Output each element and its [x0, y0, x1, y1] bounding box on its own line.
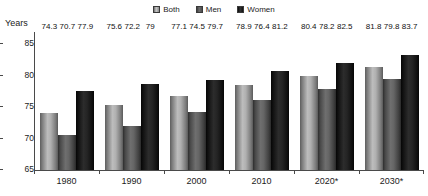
bar-value-2010-both: 78.9: [236, 22, 252, 31]
bar-wrap-2000-women: 79.7: [206, 32, 224, 170]
bar-wrap-1990-women: 79: [141, 32, 159, 170]
bar-wrap-2020-men: 78.2: [318, 32, 336, 170]
y-tick-mark-70: [0, 138, 3, 139]
bar-2030-men[interactable]: [383, 79, 401, 170]
legend-item-men: Men: [196, 5, 222, 14]
x-tick-mark-1: [99, 170, 100, 174]
bar-value-1980-women: 77.9: [78, 22, 94, 31]
x-tick-label-2020: 2020*: [294, 176, 359, 186]
bar-2000-both[interactable]: [170, 96, 188, 170]
bar-value-1980-men: 70.7: [60, 22, 76, 31]
x-tick-mark-2: [164, 170, 165, 174]
bar-wrap-2010-men: 76.4: [253, 32, 271, 170]
bar-group-1990: 75.6 72.2 79: [100, 32, 165, 170]
y-tick-mark-75: [0, 106, 3, 107]
legend-label-women: Women: [247, 5, 274, 14]
legend-swatch-icon-both: [153, 6, 160, 13]
legend-swatch-icon-men: [196, 6, 203, 13]
bar-wrap-2030-both: 81.8: [365, 32, 383, 170]
y-tick-label-65: 65: [25, 164, 34, 174]
bar-value-1980-both: 74.3: [42, 22, 58, 31]
y-tick-75: 75: [2, 101, 34, 111]
legend-item-women: Women: [237, 5, 274, 14]
x-tick-2020: 2020*: [294, 170, 359, 192]
bar-wrap-2020-both: 80.4: [300, 32, 318, 170]
y-tick-mark-65: [0, 169, 3, 170]
bar-wrap-2010-both: 78.9: [235, 32, 253, 170]
bar-value-2010-men: 76.4: [254, 22, 270, 31]
y-tick-65: 65: [2, 164, 34, 174]
bar-value-2000-men: 74.5: [189, 22, 205, 31]
bar-value-2020-both: 80.4: [301, 22, 317, 31]
legend-swatch-icon-women: [237, 6, 244, 13]
bar-value-2030-both: 81.8: [366, 22, 382, 31]
life-expectancy-bar-chart: Both Men Women Years 85 80 75 70: [0, 0, 428, 196]
x-tick-mark-4: [294, 170, 295, 174]
bar-1980-men[interactable]: [58, 135, 76, 170]
x-axis-ticks: 1980 1990 2000 2010 2020* 2030*: [34, 170, 424, 192]
bar-2000-women[interactable]: [206, 80, 224, 170]
bar-2000-men[interactable]: [188, 112, 206, 170]
bar-wrap-1990-both: 75.6: [105, 32, 123, 170]
x-tick-label-2000: 2000: [164, 176, 229, 186]
bar-2030-women[interactable]: [401, 55, 419, 170]
bar-groups: 74.3 70.7 77.9 75.6: [35, 32, 424, 170]
legend-label-both: Both: [163, 5, 179, 14]
y-tick-label-85: 85: [25, 38, 34, 48]
bar-2020-women[interactable]: [336, 63, 354, 170]
bar-1990-men[interactable]: [123, 126, 141, 170]
bar-value-2030-men: 79.8: [384, 22, 400, 31]
bar-1990-both[interactable]: [105, 105, 123, 170]
bar-value-2010-women: 81.2: [272, 22, 288, 31]
legend-label-men: Men: [206, 5, 222, 14]
x-tick-mark-3: [229, 170, 230, 174]
bar-2030-both[interactable]: [365, 67, 383, 170]
bar-wrap-1980-men: 70.7: [58, 32, 76, 170]
bar-value-2000-women: 79.7: [207, 22, 223, 31]
x-tick-1980: 1980: [34, 170, 99, 192]
y-tick-label-80: 80: [25, 70, 34, 80]
chart-legend: Both Men Women: [0, 5, 428, 14]
bar-2010-both[interactable]: [235, 85, 253, 170]
bar-wrap-2030-women: 83.7: [401, 32, 419, 170]
bar-wrap-1980-women: 77.9: [76, 32, 94, 170]
x-tick-2000: 2000: [164, 170, 229, 192]
bar-value-1990-men: 72.2: [124, 22, 140, 31]
bar-value-1990-women: 79: [146, 22, 155, 31]
bar-wrap-1980-both: 74.3: [40, 32, 58, 170]
x-tick-2030: 2030*: [359, 170, 424, 192]
plot-area: 85 80 75 70 65 74.3: [34, 32, 424, 170]
bar-1980-both[interactable]: [40, 113, 58, 170]
bar-wrap-2010-women: 81.2: [271, 32, 289, 170]
bar-2010-men[interactable]: [253, 100, 271, 170]
legend-item-both: Both: [153, 5, 179, 14]
x-tick-label-2030: 2030*: [359, 176, 424, 186]
x-tick-2010: 2010: [229, 170, 294, 192]
bar-1980-women[interactable]: [76, 91, 94, 170]
bar-2010-women[interactable]: [271, 71, 289, 170]
y-tick-70: 70: [2, 133, 34, 143]
y-tick-mark-80: [0, 75, 3, 76]
bar-value-2020-men: 78.2: [319, 22, 335, 31]
bar-wrap-2000-both: 77.1: [170, 32, 188, 170]
x-tick-1990: 1990: [99, 170, 164, 192]
bar-1990-women[interactable]: [141, 84, 159, 170]
bar-value-1990-both: 75.6: [106, 22, 122, 31]
bar-2020-both[interactable]: [300, 76, 318, 171]
bar-wrap-1990-men: 72.2: [123, 32, 141, 170]
bar-wrap-2030-men: 79.8: [383, 32, 401, 170]
x-tick-label-1980: 1980: [34, 176, 99, 186]
x-tick-mark-6: [423, 170, 424, 174]
y-tick-85: 85: [2, 38, 34, 48]
bar-group-2010: 78.9 76.4 81.2: [229, 32, 294, 170]
y-tick-mark-85: [0, 43, 3, 44]
y-tick-label-70: 70: [25, 133, 34, 143]
x-tick-mark-5: [359, 170, 360, 174]
bar-group-2000: 77.1 74.5 79.7: [165, 32, 230, 170]
bar-group-2020: 80.4 78.2 82.5: [294, 32, 359, 170]
x-tick-label-1990: 1990: [99, 176, 164, 186]
bar-wrap-2000-men: 74.5: [188, 32, 206, 170]
y-tick-label-75: 75: [25, 101, 34, 111]
bar-2020-men[interactable]: [318, 89, 336, 170]
bar-group-2030: 81.8 79.8 83.7: [359, 32, 424, 170]
